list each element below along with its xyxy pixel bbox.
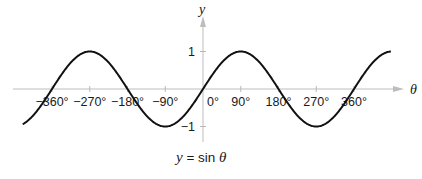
- x-tick-label: 0°: [207, 95, 219, 109]
- y-tick-label: −1: [181, 120, 195, 134]
- x-tick-label: 270°: [303, 95, 329, 109]
- x-tick-label: −90°: [152, 95, 178, 109]
- x-tick-label: −270°: [73, 95, 106, 109]
- x-axis-label: θ: [410, 82, 417, 97]
- caption-equals: =: [183, 150, 198, 165]
- x-axis-arrow-icon: [393, 86, 404, 92]
- y-tick-label: 1: [188, 45, 195, 59]
- caption-argument: θ: [219, 149, 226, 165]
- chart-caption: y = sin θ: [176, 149, 226, 166]
- x-tick-label: 90°: [231, 95, 250, 109]
- caption-lhs: y: [176, 149, 183, 165]
- y-axis-label: y: [197, 2, 206, 17]
- caption-function: sin: [198, 150, 219, 165]
- y-axis-arrow-icon: [200, 16, 206, 27]
